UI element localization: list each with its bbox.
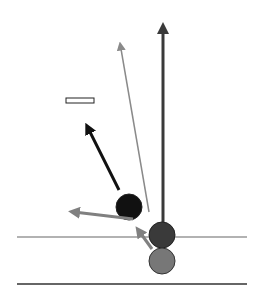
thin-gray-arrow — [121, 46, 150, 212]
black-arrow — [88, 128, 119, 190]
gray-ball — [149, 248, 175, 274]
marker-rectangle — [66, 98, 94, 103]
collision-diagram — [0, 0, 262, 301]
dark-ball — [149, 222, 175, 248]
